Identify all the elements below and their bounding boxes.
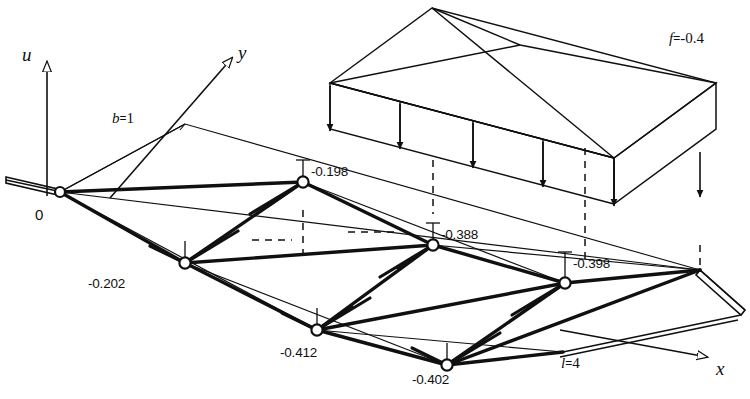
node-n3-value-label: -0.398 [573,256,610,271]
y-axis-label: y [238,42,246,64]
load-value: -0.4 [680,30,704,46]
node-n5-value-label: -0.412 [280,345,317,360]
length-value: 4 [572,355,580,371]
width-symbol: b [112,110,120,126]
u-axis-label: u [22,44,32,66]
length-equals: = [565,356,572,370]
node-n2-circle [427,239,438,250]
node-n6-circle [441,359,452,370]
y-axis-line [110,58,232,198]
uniform-load-block [330,8,716,204]
width-dimension-label: b=1 [112,110,134,127]
width-equals: = [120,111,127,125]
load-dimension-label: f=-0.4 [669,30,704,47]
figure-drawing [0,0,750,399]
node-n1-value-label: -0.198 [311,164,348,179]
x-axis-label: x [716,358,724,380]
width-value: 1 [127,110,135,126]
origin-label: 0 [35,206,43,223]
node-n5-circle [311,324,322,335]
node-offset-ticks [185,160,572,365]
node-n4-circle [179,257,190,268]
node-n3-circle [559,277,570,288]
length-dimension-label: l=4 [561,355,580,372]
node-n6-value-label: -0.402 [412,372,449,387]
load-equals: = [673,31,680,45]
axis-lines [47,58,707,357]
node-n4-value-label: -0.202 [88,276,125,291]
engineering-figure: u y x 0 b=1 l=4 f=-0.4 -0.198 -0.388 -0.… [0,0,750,399]
mesh-nodes [55,176,571,370]
node-n1-circle [297,176,308,187]
left-edge-flange [6,124,185,192]
load-arrows [330,86,700,206]
node-n2-value-label: -0.388 [441,227,478,242]
node-origin-circle [55,187,65,197]
